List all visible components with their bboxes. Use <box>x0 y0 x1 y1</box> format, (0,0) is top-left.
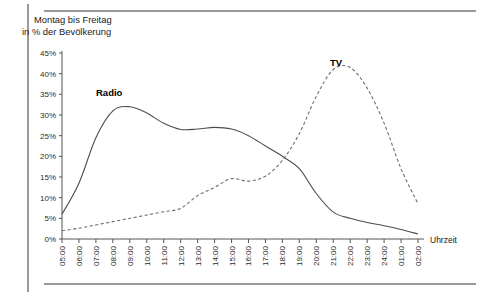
x-axis-tick-label: 05:00 <box>58 245 67 266</box>
series-label-tv: TV <box>330 57 343 68</box>
x-axis-tick-label: 10:00 <box>143 245 152 266</box>
x-axis-tick-label: 09:00 <box>126 245 135 266</box>
x-axis-tick-label: 22:00 <box>346 245 355 266</box>
line-chart: 0%5%10%15%20%25%30%35%40%45% 05:0006:000… <box>0 0 481 295</box>
y-axis-tick-label: 45% <box>40 49 56 58</box>
x-axis-tick-label: 19:00 <box>295 245 304 266</box>
y-axis-tick-label: 20% <box>40 152 56 161</box>
x-axis-tick-label: 20:00 <box>312 245 321 266</box>
y-axis-tick-label: 30% <box>40 111 56 120</box>
figure-page: Montag bis Freitag in % der Bevölkerung … <box>0 0 481 295</box>
x-axis-tick-label: 11:00 <box>160 245 169 265</box>
x-axis-tick-label: 07:00 <box>92 245 101 266</box>
x-axis-tick-label: 08:00 <box>109 245 118 266</box>
x-axis-tick-label: 21:00 <box>329 245 338 266</box>
series-line-radio <box>62 106 418 234</box>
x-axis-tick-label: 14:00 <box>211 245 220 266</box>
y-axis-tick-label: 35% <box>40 90 56 99</box>
series-label-radio: Radio <box>96 87 123 98</box>
y-axis-tick-label: 15% <box>40 173 56 182</box>
y-axis-tick-label: 25% <box>40 132 56 141</box>
x-axis-title: Uhrzeit <box>430 235 458 245</box>
y-axis-tick-label: 0% <box>44 235 56 244</box>
y-axis-tick-label: 40% <box>40 70 56 79</box>
x-axis-tick-label: 24:00 <box>380 245 389 266</box>
x-axis-tick-labels: 05:0006:0007:0008:0009:0010:0011:0012:00… <box>58 245 423 266</box>
x-axis-tick-label: 12:00 <box>177 245 186 266</box>
x-axis-tick-label: 18:00 <box>278 245 287 266</box>
x-axis-tick-label: 17:00 <box>261 245 270 266</box>
x-axis-tick-label: 02:00 <box>414 245 423 266</box>
x-axis-tick-label: 13:00 <box>194 245 203 266</box>
y-axis-tick-label: 5% <box>44 214 56 223</box>
x-axis-tick-label: 06:00 <box>75 245 84 266</box>
x-axis-tick-label: 15:00 <box>228 245 237 266</box>
x-axis-tick-label: 16:00 <box>244 245 253 266</box>
x-axis-tick-label: 01:00 <box>397 245 406 266</box>
x-axis-tick-label: 23:00 <box>363 245 372 266</box>
x-axis-tick-marks <box>62 239 418 243</box>
y-axis-tick-label: 10% <box>40 194 56 203</box>
y-axis-tick-labels: 0%5%10%15%20%25%30%35%40%45% <box>40 49 56 244</box>
